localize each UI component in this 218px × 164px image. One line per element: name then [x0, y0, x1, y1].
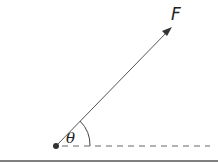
angle-theta-label: θ	[66, 129, 75, 147]
origin-point	[53, 143, 59, 149]
arrow-head-icon	[162, 27, 172, 36]
force-label: F	[171, 4, 181, 24]
force-diagram	[0, 0, 218, 164]
angle-arc	[80, 121, 90, 146]
